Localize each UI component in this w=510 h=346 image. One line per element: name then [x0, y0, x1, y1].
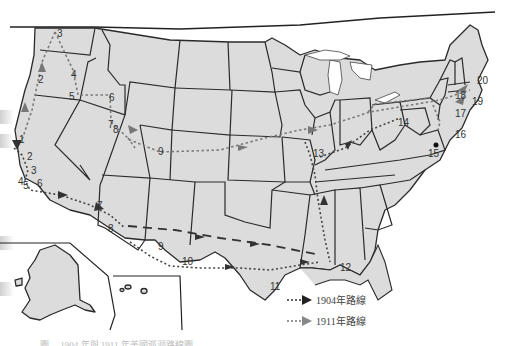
stop-label: 9 — [158, 146, 164, 157]
stop-label: 8 — [113, 124, 119, 135]
stop-label: 6 — [37, 178, 43, 189]
stop-label: 7 — [97, 200, 103, 211]
stop-label: 5 — [69, 91, 75, 102]
legend: 1904年路線 1911年路線 — [287, 294, 366, 327]
stop-label: 8 — [108, 223, 114, 234]
stop-label: 18 — [455, 90, 467, 101]
figure-caption: 圖 ... 1904 年與 1911 年美國巡迴路線圖 — [40, 338, 310, 346]
stop-label: 3 — [31, 165, 37, 176]
stop-label: 12 — [340, 262, 352, 273]
stop-label: 16 — [455, 129, 467, 140]
legend-item-1904: 1904年路線 — [287, 294, 366, 306]
alaska — [22, 245, 95, 320]
stop-label: 14 — [398, 117, 410, 128]
legend-label-1904: 1904年路線 — [316, 294, 366, 306]
stop-label: 4 — [71, 69, 77, 80]
stop-label: 2 — [38, 74, 44, 85]
hawaii-islands — [120, 285, 147, 294]
stop-label: 11 — [270, 281, 281, 292]
stop-label: 17 — [455, 108, 467, 119]
stop-label: 2 — [27, 151, 33, 162]
stop-label: 10 — [182, 256, 194, 267]
hawaii-inset-frame — [113, 276, 182, 330]
alaska-island — [15, 278, 22, 286]
stop-label: 15 — [428, 148, 440, 159]
stop-label: 3 — [57, 28, 63, 39]
stop-marker — [434, 143, 439, 148]
stop-label: 1 — [19, 134, 25, 145]
stop-label: 13 — [313, 148, 325, 159]
legend-label-1911: 1911年路線 — [316, 315, 366, 327]
stop-label: 9 — [158, 241, 164, 252]
dark-arrow-icon — [302, 295, 312, 305]
stop-label: 6 — [109, 92, 115, 103]
us-landmass — [15, 25, 488, 300]
gray-arrow-icon — [302, 316, 312, 326]
stop-label: 5 — [23, 180, 29, 191]
stop-label: 19 — [472, 96, 484, 107]
legend-item-1911: 1911年路線 — [287, 315, 366, 327]
stop-label: 20 — [477, 75, 489, 86]
canada-border — [10, 12, 495, 29]
